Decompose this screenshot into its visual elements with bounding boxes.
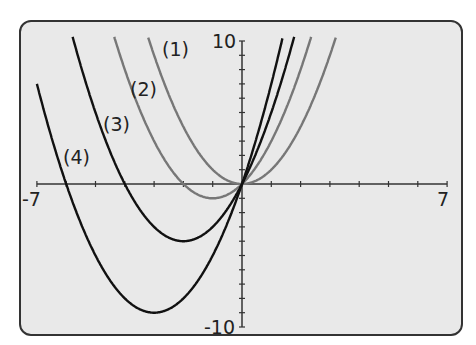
curve-4-label: (4): [63, 148, 90, 167]
x-min-label: -7: [22, 190, 41, 209]
curve-2: [114, 37, 311, 198]
curve-3-label: (3): [103, 115, 130, 134]
curve-2-label: (2): [130, 80, 157, 99]
y-min-label: -10: [204, 318, 235, 337]
curve-3: [73, 37, 295, 241]
y-max-label: 10: [212, 32, 236, 51]
curve-1-label: (1): [162, 40, 189, 59]
curve-4: [37, 38, 283, 312]
parabola-plot: [0, 0, 476, 345]
x-max-label: 7: [437, 190, 449, 209]
